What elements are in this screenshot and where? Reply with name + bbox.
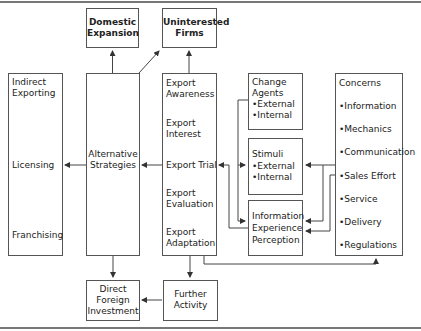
domestic-expansion-box: Domestic Expansion <box>86 8 139 48</box>
concerns-title: Concerns <box>339 78 381 89</box>
export-interest-line1: Export <box>166 118 195 129</box>
alternative-strategies-box: Alternative Strategies <box>86 73 140 256</box>
domestic-expansion-line2: Expansion <box>87 28 138 39</box>
concern-delivery: •Delivery <box>339 217 382 228</box>
uninterested-firms-line2: Firms <box>163 28 216 39</box>
stimuli-external: •External <box>252 161 295 172</box>
dfi-line1: Direct <box>87 284 139 295</box>
change-agents-internal: •Internal <box>252 110 292 121</box>
direct-foreign-investment-box: Direct Foreign Investment <box>86 280 140 321</box>
stimuli-box: Stimuli •External •Internal <box>248 138 303 195</box>
export-stages-box: Export Awareness Export Interest Export … <box>162 73 217 256</box>
uninterested-firms-line1: Uninterested <box>163 17 216 28</box>
concern-information: •Information <box>339 101 396 112</box>
entry-mode-franchising: Franchising <box>12 230 63 241</box>
further-activity-box: Further Activity <box>163 280 218 321</box>
export-evaluation-line2: Evaluation <box>166 199 214 210</box>
information-line2: Experience <box>252 223 302 234</box>
concern-sales-effort: •Sales Effort <box>339 171 396 182</box>
export-awareness-line2: Awareness <box>166 89 214 100</box>
entry-mode-exporting: Exporting <box>12 88 55 99</box>
further-activity-line2: Activity <box>164 300 217 311</box>
dfi-line3: Investment <box>87 306 139 317</box>
export-adaptation-line2: Adaptation <box>166 238 215 249</box>
further-activity-line1: Further <box>164 289 217 300</box>
information-line3: Perception <box>252 235 300 246</box>
concerns-box: Concerns •Information •Mechanics •Commun… <box>335 73 403 256</box>
export-adaptation-line1: Export <box>166 227 195 238</box>
export-awareness-line1: Export <box>166 78 195 89</box>
change-agents-box: Change Agents •External •Internal <box>248 73 303 130</box>
change-agents-external: •External <box>252 99 295 110</box>
information-box: Information Experience Perception <box>248 200 303 256</box>
change-agents-line2: Agents <box>252 88 283 99</box>
entry-modes-box: Indirect Exporting Licensing Franchising <box>8 73 63 256</box>
export-trial: Export Trial <box>166 160 217 171</box>
entry-mode-licensing: Licensing <box>12 160 54 171</box>
stimuli-internal: •Internal <box>252 172 292 183</box>
concern-regulations: •Regulations <box>339 240 397 251</box>
change-agents-line1: Change <box>252 77 286 88</box>
export-interest-line2: Interest <box>166 129 201 140</box>
alternative-strategies-line1: Alternative <box>87 149 139 160</box>
alternative-strategies-line2: Strategies <box>87 160 139 171</box>
concern-service: •Service <box>339 194 378 205</box>
concern-communication: •Communication <box>339 147 415 158</box>
export-evaluation-line1: Export <box>166 188 195 199</box>
entry-mode-indirect: Indirect <box>12 77 46 88</box>
stimuli-title: Stimuli <box>252 149 283 160</box>
domestic-expansion-line1: Domestic <box>87 17 138 28</box>
information-line1: Information <box>252 211 304 222</box>
dfi-line2: Foreign <box>87 295 139 306</box>
uninterested-firms-box: Uninterested Firms <box>162 8 217 48</box>
concern-mechanics: •Mechanics <box>339 124 392 135</box>
